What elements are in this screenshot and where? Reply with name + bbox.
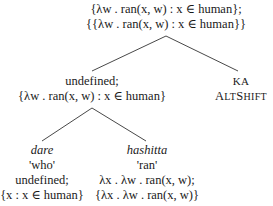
mid-right-line2: ALTSHIFT xyxy=(215,89,267,104)
leaf-right-word: hashitta xyxy=(95,143,199,158)
leaf-left-word: dare xyxy=(0,143,84,158)
mid-right-line1: KA xyxy=(215,74,267,89)
root-line2: {{λw . ran(x, w) : x ∈ human}} xyxy=(86,17,246,32)
root-line1: {λw . ran(x, w) : x ∈ human}; xyxy=(86,2,246,17)
leaf-right-gloss: 'ran' xyxy=(95,158,199,173)
mid-left-line1: undefined; xyxy=(18,74,166,89)
mid-right-node: KA ALTSHIFT xyxy=(215,74,267,104)
edge-root-right xyxy=(166,36,238,71)
mid-left-line2: {λw . ran(x, w) : x ∈ human} xyxy=(18,89,166,104)
leaf-left-gloss: 'who' xyxy=(0,158,84,173)
leaf-right-node: hashitta 'ran' λx . λw . ran(x, w); {λx … xyxy=(95,143,199,203)
leaf-right-line2: {λx . λw . ran(x, w)} xyxy=(95,188,199,203)
leaf-left-line2: {x : x ∈ human} xyxy=(0,188,84,203)
mid-left-node: undefined; {λw . ran(x, w) : x ∈ human} xyxy=(18,74,166,104)
leaf-left-node: dare 'who' undefined; {x : x ∈ human} xyxy=(0,143,84,203)
edge-mid-right xyxy=(92,108,146,141)
leaf-right-line1: λx . λw . ran(x, w); xyxy=(95,173,199,188)
leaf-left-line1: undefined; xyxy=(0,173,84,188)
root-node: {λw . ran(x, w) : x ∈ human}; {{λw . ran… xyxy=(86,2,246,32)
edge-mid-left xyxy=(42,108,92,141)
edge-root-left xyxy=(92,36,166,71)
